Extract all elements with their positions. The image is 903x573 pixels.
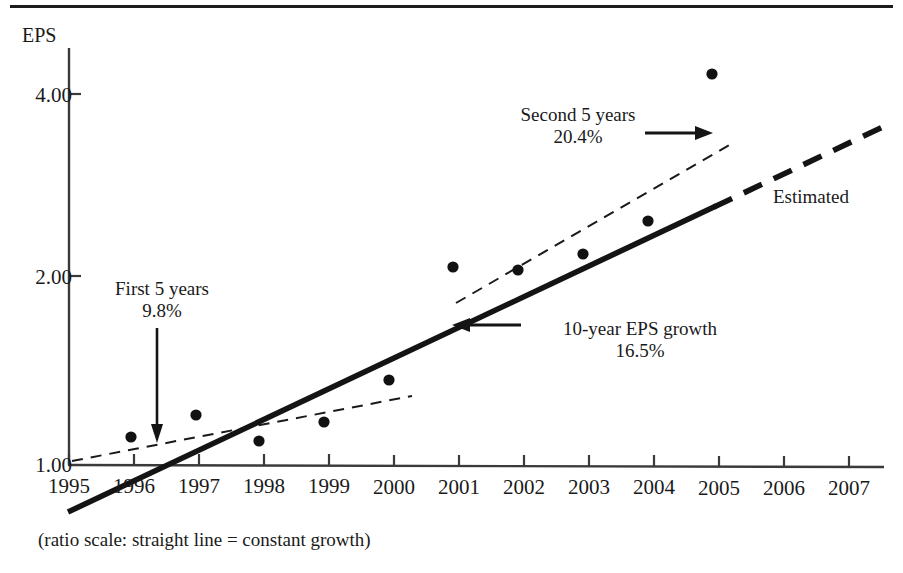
annotation-second-5-years-title: Second 5 years (520, 104, 635, 125)
y-tick-label: 4.00 (8, 83, 72, 107)
x-tick-label: 2000 (359, 475, 429, 499)
data-point (318, 416, 329, 427)
y-tick-label: 2.00 (8, 265, 72, 289)
figure-caption: (ratio scale: straight line = constant g… (38, 529, 371, 551)
data-point (125, 431, 136, 442)
data-point (706, 68, 717, 79)
annotation-first-5-years-value: 9.8% (82, 300, 242, 322)
data-point (253, 435, 264, 446)
x-tick-label: 2001 (424, 475, 494, 499)
annotation-first-5-years-title: First 5 years (115, 278, 209, 299)
annotation-arrow-ten-year (452, 318, 521, 332)
annotation-estimated-label: Estimated (773, 186, 849, 208)
chart-figure: EPS (0, 0, 903, 573)
data-point (577, 248, 588, 259)
data-point (642, 215, 653, 226)
x-tick-label: 1999 (294, 474, 364, 498)
data-point (447, 261, 458, 272)
annotation-first-5-years: First 5 years 9.8% (82, 278, 242, 322)
annotation-second-5-years: Second 5 years 20.4% (498, 104, 658, 148)
x-axis-line (68, 465, 884, 467)
x-tick-label: 2006 (749, 476, 819, 500)
data-point (383, 374, 394, 385)
trend-second-5-years (456, 143, 733, 303)
annotation-ten-year-growth: 10-year EPS growth 16.5% (530, 318, 750, 362)
x-tick-label: 2003 (554, 475, 624, 499)
x-tick-label: 2004 (619, 475, 689, 499)
x-tick-label: 1995 (34, 474, 104, 498)
annotation-arrow-first-5-years (151, 328, 163, 443)
annotation-ten-year-growth-value: 16.5% (530, 340, 750, 362)
x-tick-label: 1998 (229, 474, 299, 498)
y-tick-marks (69, 94, 81, 276)
annotation-ten-year-growth-title: 10-year EPS growth (563, 318, 717, 339)
x-tick-label: 1996 (99, 474, 169, 498)
data-point (190, 409, 201, 420)
x-tick-label: 2002 (489, 475, 559, 499)
data-point (512, 264, 523, 275)
x-tick-label: 2005 (684, 476, 754, 500)
x-tick-label: 2007 (814, 476, 884, 500)
x-tick-label: 1997 (164, 474, 234, 498)
annotation-second-5-years-value: 20.4% (498, 126, 658, 148)
